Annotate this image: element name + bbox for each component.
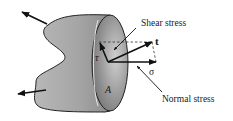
- normal-stress-label: Normal stress: [162, 94, 215, 104]
- external-force-arrow-top: [22, 12, 47, 24]
- tau-label: τ: [95, 52, 99, 63]
- area-label: A: [104, 84, 112, 95]
- sigma-label: σ: [149, 67, 154, 77]
- traction-vector-label: t: [155, 35, 159, 47]
- cut-face: [92, 15, 128, 111]
- shear-stress-label: Shear stress: [141, 18, 186, 28]
- stress-diagram: Shear stress Normal stress t σ τ A: [0, 0, 233, 121]
